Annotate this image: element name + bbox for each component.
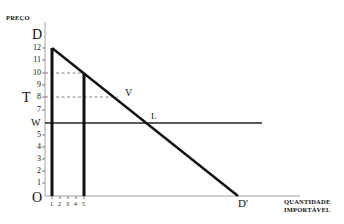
y-tick-12: 12 — [27, 44, 41, 52]
label-origin: O — [32, 191, 42, 205]
label-d-prime: D' — [238, 198, 248, 209]
x-tick-5: 5 — [82, 201, 85, 207]
y-tick-9: 9 — [27, 81, 41, 89]
y-tick-11: 11 — [27, 56, 41, 64]
y-tick-10: 10 — [27, 69, 41, 77]
y-axis-title: PREÇO — [6, 15, 30, 22]
y-tick-2: 2 — [27, 167, 41, 175]
x-tick-2: 2 — [58, 201, 61, 207]
x-tick-1: 1 — [50, 201, 53, 207]
y-axis-ticks — [42, 48, 45, 183]
y-tick-7: 7 — [27, 106, 41, 114]
x-tick-4: 4 — [74, 201, 77, 207]
label-d: D — [32, 28, 42, 42]
y-tick-5: 5 — [27, 131, 41, 139]
y-tick-3: 3 — [27, 155, 41, 163]
chart-canvas — [0, 0, 344, 224]
label-l: L — [151, 112, 157, 121]
x-axis-title-line2: IMPORTÁVEL — [284, 207, 331, 214]
y-tick-1: 1 — [27, 179, 41, 187]
label-v: V — [125, 88, 132, 98]
x-tick-3: 3 — [66, 201, 69, 207]
label-w: W — [31, 118, 40, 128]
x-axis-title-line1: QUANTIDADE — [284, 199, 330, 206]
demand-curve — [52, 48, 238, 196]
y-tick-8: 8 — [27, 93, 41, 101]
y-tick-4: 4 — [27, 143, 41, 151]
x-axis-ticks — [52, 196, 84, 199]
